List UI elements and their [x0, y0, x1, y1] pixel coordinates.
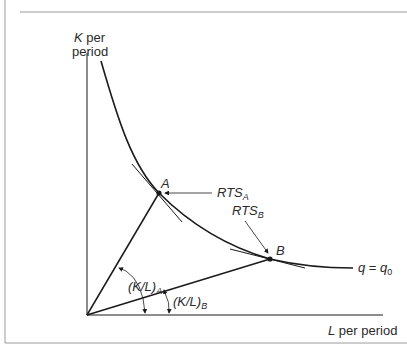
y-axis-label-line2: period: [72, 44, 108, 59]
isoquant-diagram: K per period L per period q = q0 A B RTS…: [0, 0, 407, 349]
y-axis-label: K per: [74, 30, 106, 45]
isoquant-label: q = q0: [358, 260, 392, 277]
x-axis-label: L per period: [328, 323, 397, 338]
ratio-a-label: (K/L)A: [128, 279, 162, 296]
point-a: [156, 190, 161, 195]
rts-b-label: RTSB: [232, 203, 264, 220]
point-a-label: A: [160, 176, 170, 191]
ratio-a-angle-arrow-start: [119, 268, 126, 271]
ratio-b-label: (K/L)B: [173, 294, 207, 311]
isoquant-curve: [101, 61, 353, 268]
rts-b-arrow: [245, 221, 268, 253]
ratio-b-angle-arrow: [165, 293, 169, 313]
point-b-label: B: [276, 243, 285, 258]
point-b: [267, 256, 272, 261]
rts-a-label: RTSA: [217, 185, 249, 202]
